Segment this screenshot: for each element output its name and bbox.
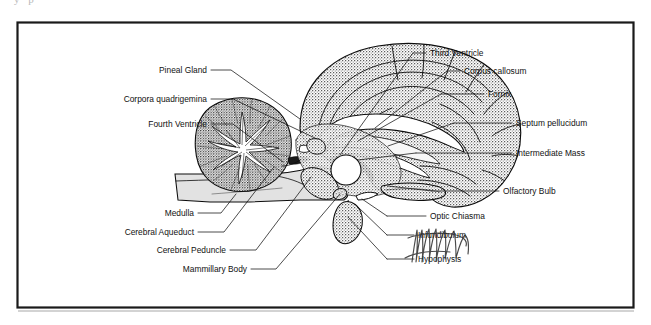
label-medulla: Medulla — [165, 208, 195, 218]
label-olfactory-bulb: Olfactory Bulb — [503, 186, 556, 196]
label-fornix: Fornix — [488, 89, 512, 99]
label-mammillary-body: Mammillary Body — [183, 264, 248, 274]
label-cerebral-aqueduct: Cerebral Aqueduct — [125, 227, 195, 237]
leader-line-infundibulum — [358, 207, 414, 235]
label-hypophysis: Hypophysis — [418, 254, 461, 264]
label-fourth-ventricle: Fourth Ventricle — [148, 119, 207, 129]
label-septum-pellucidum: Septum pellucidum — [516, 118, 587, 128]
label-optic-chiasma: Optic Chiasma — [430, 211, 485, 221]
label-corpora-quadrigemina: Corpora quadrigemina — [124, 94, 208, 104]
diagram-page: y p — [0, 0, 651, 325]
label-third-ventricle: Third Ventricle — [430, 48, 484, 58]
leader-line-mammillary-body — [251, 194, 340, 269]
hypophysis-structure — [333, 202, 362, 244]
olfactory-bulb-structure — [381, 183, 446, 200]
label-pineal-gland: Pineal Gland — [159, 65, 207, 75]
label-corpus-callosum: Corpus callosum — [464, 66, 526, 76]
label-intermediate-mass: Intermediate Mass — [516, 148, 585, 158]
leader-line-optic-chiasma — [362, 199, 426, 216]
corpora-quadrigemina-structure — [307, 139, 326, 155]
brain-sagittal-figure: Pineal GlandCorpora quadrigeminaFourth V… — [0, 0, 651, 325]
label-cerebral-peduncle: Cerebral Peduncle — [157, 245, 227, 255]
